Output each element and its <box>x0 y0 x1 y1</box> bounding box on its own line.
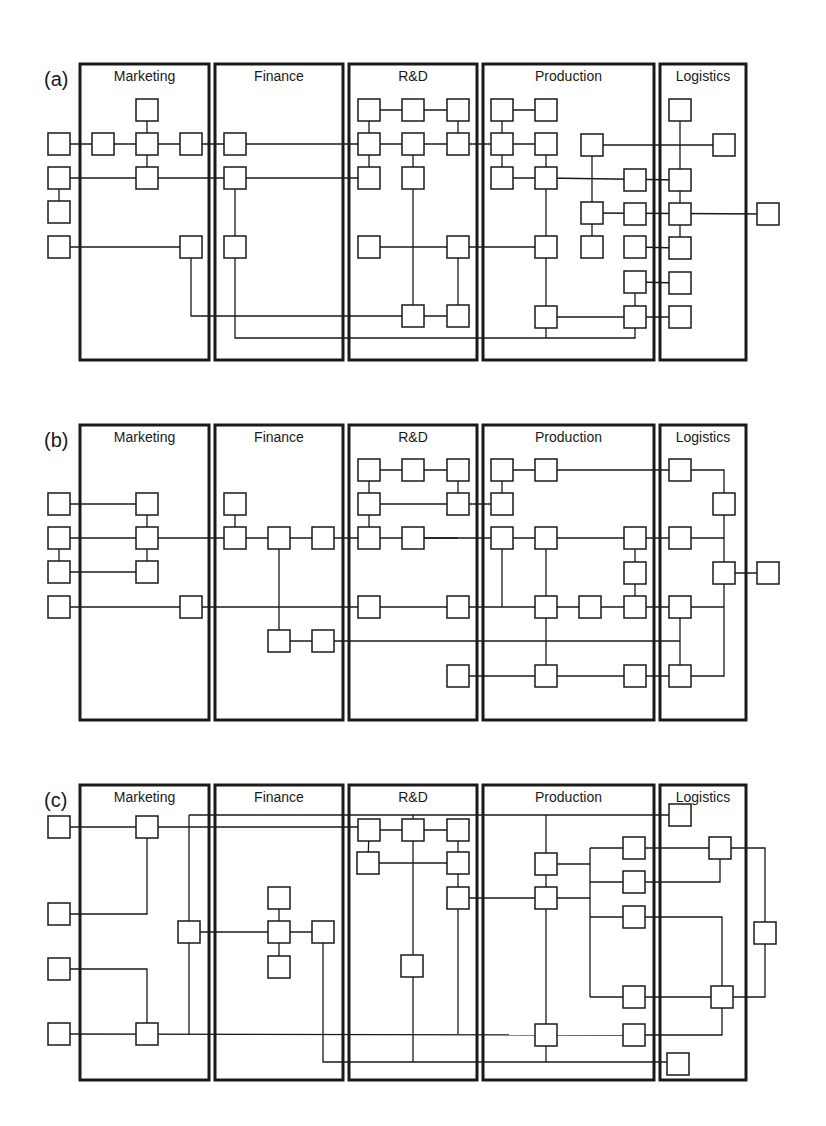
unit-node <box>180 236 202 258</box>
connection-line <box>235 247 635 338</box>
unit-node <box>358 459 380 481</box>
unit-node <box>358 99 380 121</box>
unit-node <box>624 203 646 225</box>
unit-node <box>447 133 469 155</box>
unit-node <box>624 665 646 687</box>
unit-node <box>491 493 513 515</box>
connections <box>59 470 768 676</box>
unit-node <box>358 236 380 258</box>
unit-node <box>447 665 469 687</box>
nodes <box>48 459 779 687</box>
unit-node <box>136 493 158 515</box>
unit-node <box>180 596 202 618</box>
unit-node <box>624 236 646 258</box>
unit-node <box>669 665 691 687</box>
unit-node <box>669 596 691 618</box>
unit-node <box>401 955 423 977</box>
panel-label: (c) <box>44 789 67 811</box>
unit-node <box>535 1024 557 1046</box>
unit-node <box>312 527 334 549</box>
unit-node <box>402 819 424 841</box>
department-label: Marketing <box>114 429 175 445</box>
unit-node <box>713 562 735 584</box>
unit-node <box>579 596 601 618</box>
connection-line <box>590 848 765 997</box>
unit-node <box>268 956 290 978</box>
unit-node <box>447 459 469 481</box>
unit-node <box>581 134 603 156</box>
org-structure-diagram: (a)MarketingFinanceR&DProductionLogistic… <box>0 0 826 1126</box>
unit-node <box>48 201 70 223</box>
unit-node <box>757 203 779 225</box>
diagram-panels: (a)MarketingFinanceR&DProductionLogistic… <box>44 64 779 1080</box>
unit-node <box>358 493 380 515</box>
unit-node <box>669 459 691 481</box>
unit-node <box>535 133 557 155</box>
department-logistics: Logistics <box>660 785 746 1080</box>
unit-node <box>623 871 645 893</box>
unit-node <box>402 459 424 481</box>
unit-node <box>178 921 200 943</box>
department-label: Finance <box>254 429 304 445</box>
unit-node <box>48 596 70 618</box>
unit-node <box>224 133 246 155</box>
unit-node <box>136 527 158 549</box>
connection-line <box>59 827 147 914</box>
unit-node <box>268 887 290 909</box>
department-label: R&D <box>398 789 428 805</box>
unit-node <box>535 665 557 687</box>
unit-node <box>447 596 469 618</box>
unit-node <box>312 630 334 652</box>
unit-node <box>447 493 469 515</box>
unit-node <box>48 561 70 583</box>
department-label: Logistics <box>676 429 730 445</box>
unit-node <box>48 958 70 980</box>
panel-label: (a) <box>44 68 68 90</box>
unit-node <box>624 271 646 293</box>
unit-node <box>757 562 779 584</box>
unit-node <box>669 169 691 191</box>
unit-node <box>358 819 380 841</box>
unit-node <box>711 986 733 1008</box>
unit-node <box>669 306 691 328</box>
unit-node <box>709 837 731 859</box>
panel-b: (b)MarketingFinanceR&DProductionLogistic… <box>44 425 779 720</box>
unit-node <box>136 99 158 121</box>
unit-node <box>224 493 246 515</box>
unit-node <box>447 305 469 327</box>
unit-node <box>535 887 557 909</box>
department-label: R&D <box>398 429 428 445</box>
unit-node <box>48 236 70 258</box>
connection-line <box>59 969 147 1034</box>
unit-node <box>48 493 70 515</box>
unit-node <box>713 493 735 515</box>
unit-node <box>180 133 202 155</box>
unit-node <box>48 133 70 155</box>
unit-node <box>669 237 691 259</box>
panel-a: (a)MarketingFinanceR&DProductionLogistic… <box>44 64 779 360</box>
unit-node <box>624 169 646 191</box>
unit-node <box>535 236 557 258</box>
unit-node <box>402 305 424 327</box>
department-label: Production <box>535 429 602 445</box>
unit-node <box>136 133 158 155</box>
unit-node <box>402 99 424 121</box>
unit-node <box>623 986 645 1008</box>
unit-node <box>136 561 158 583</box>
unit-node <box>224 527 246 549</box>
unit-node <box>535 527 557 549</box>
unit-node <box>447 852 469 874</box>
unit-node <box>224 167 246 189</box>
unit-node <box>581 202 603 224</box>
unit-node <box>136 167 158 189</box>
unit-node <box>268 527 290 549</box>
department-label: Finance <box>254 68 304 84</box>
panel-c: (c)MarketingFinanceR&DProductionLogistic… <box>44 785 776 1080</box>
unit-node <box>669 527 691 549</box>
department-label: Logistics <box>676 789 730 805</box>
unit-node <box>535 306 557 328</box>
unit-node <box>357 852 379 874</box>
unit-node <box>623 837 645 859</box>
unit-node <box>623 1024 645 1046</box>
unit-node <box>358 133 380 155</box>
